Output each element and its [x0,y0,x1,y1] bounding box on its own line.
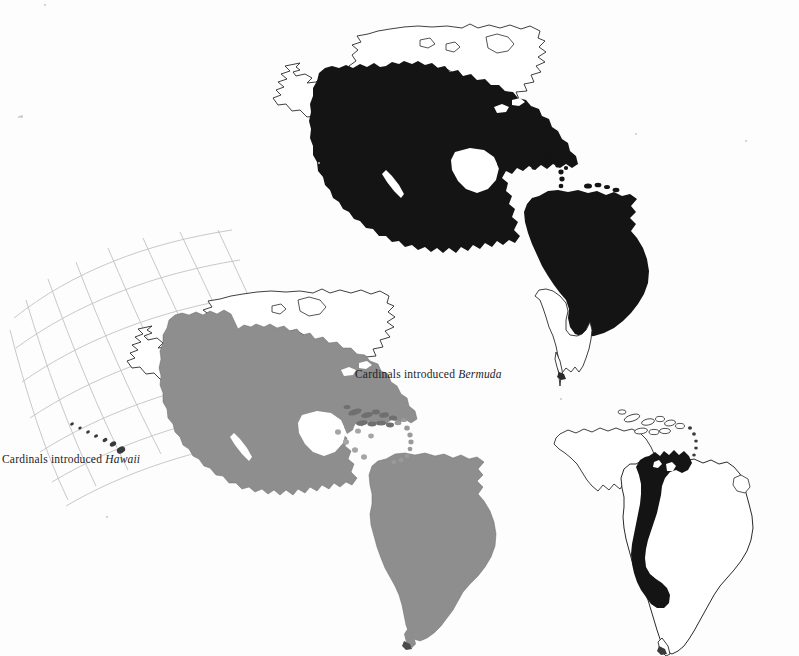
scan-speck [745,140,747,142]
scan-speck [44,4,46,6]
caption-bermuda: Cardinals introduced Bermuda [355,368,502,380]
se-map-landmass [554,410,753,656]
scan-speck [635,133,637,135]
caption-bermuda-place: Bermuda [458,368,502,380]
scan-speck [560,398,562,400]
caption-hawaii: Cardinals introduced Hawaii [2,453,140,465]
scan-speck [106,516,108,518]
caption-bermuda-lead: Cardinals introduced [355,368,458,380]
caption-hawaii-place: Hawaii [105,453,140,465]
andean-cardinal-range-map [0,0,799,656]
caption-hawaii-lead: Cardinals introduced [2,453,105,465]
distribution-map-figure: Cardinals introduced Bermuda Cardinals i… [0,0,799,656]
scan-speck [318,162,320,164]
scan-speck [20,115,23,118]
